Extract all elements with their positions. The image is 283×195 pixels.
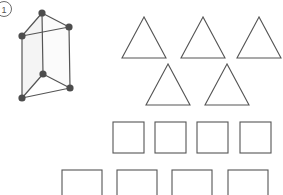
- prism-vertex-dot: [18, 94, 25, 101]
- square-shape: [113, 122, 144, 153]
- triangle-row: [146, 64, 249, 105]
- prism-vertex-dot: [39, 70, 46, 77]
- prism-vertex-dot: [66, 84, 73, 91]
- square-row: [113, 122, 271, 153]
- triangular-prism-figure: [18, 9, 73, 101]
- triangle-shape: [205, 64, 249, 105]
- square-shape: [62, 170, 102, 195]
- triangle-shape: [122, 17, 166, 58]
- square-shape: [155, 122, 186, 153]
- square-shape: [197, 122, 228, 153]
- worksheet-canvas: 1: [0, 0, 283, 195]
- triangle-shape: [181, 17, 225, 58]
- square-shape: [172, 170, 212, 195]
- square-shape: [240, 122, 271, 153]
- triangle-shape: [237, 17, 281, 58]
- prism-vertex-dot: [38, 9, 45, 16]
- prism-face-right: [42, 13, 70, 88]
- prism-vertex-dot: [18, 32, 25, 39]
- square-row: [62, 170, 268, 195]
- triangle-shape: [146, 64, 190, 105]
- shapes-layer: [0, 0, 283, 195]
- triangle-row: [122, 17, 281, 58]
- square-shape: [117, 170, 157, 195]
- square-shape: [228, 170, 268, 195]
- prism-vertex-dot: [65, 23, 72, 30]
